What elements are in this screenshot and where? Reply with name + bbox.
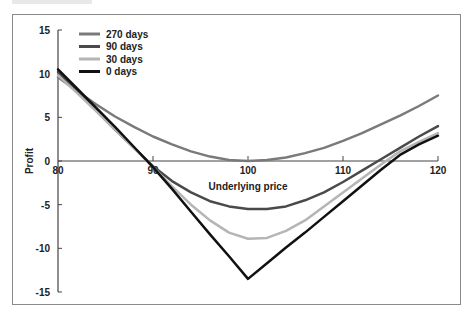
- payoff-chart: 151050-5-10-158090100110120 270 days90 d…: [0, 0, 475, 319]
- x-axis-title: Underlying price: [209, 181, 288, 192]
- legend-label: 0 days: [106, 66, 138, 77]
- y-tick-label: 0: [44, 156, 50, 167]
- y-tick-label: -5: [41, 200, 50, 211]
- x-tick-label: 100: [240, 165, 257, 176]
- x-tick-label: 80: [52, 165, 64, 176]
- x-tick-label: 120: [430, 165, 447, 176]
- legend-item: 0 days: [79, 66, 138, 77]
- y-tick-label: 5: [44, 112, 50, 123]
- legend-label: 270 days: [106, 29, 149, 40]
- legend-label: 30 days: [106, 54, 143, 65]
- y-tick-label: -10: [36, 243, 51, 254]
- y-axis-title: Profit: [24, 147, 35, 174]
- legend: 270 days90 days30 days0 days: [79, 29, 149, 78]
- legend-item: 270 days: [79, 29, 149, 40]
- y-tick-label: 15: [39, 25, 51, 36]
- series-line-270-days: [58, 77, 438, 161]
- legend-item: 90 days: [79, 41, 143, 52]
- y-tick-label: 10: [39, 69, 51, 80]
- x-tick-label: 110: [335, 165, 352, 176]
- y-tick-label: -15: [36, 287, 51, 298]
- legend-label: 90 days: [106, 41, 143, 52]
- legend-item: 30 days: [79, 54, 143, 65]
